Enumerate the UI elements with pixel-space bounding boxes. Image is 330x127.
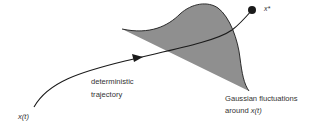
start-state-label: x(t) bbox=[18, 112, 29, 122]
fixed-point-label: x* bbox=[264, 4, 270, 14]
diagram-canvas bbox=[0, 0, 330, 127]
gaussian-distribution-shape bbox=[122, 4, 249, 91]
fixed-point-dot bbox=[248, 6, 256, 14]
fluctuations-label-prefix: around bbox=[225, 106, 251, 115]
trajectory-arrowhead-icon bbox=[132, 54, 143, 62]
fluctuations-label-line1: Gaussian fluctuations bbox=[225, 94, 298, 104]
fluctuations-label-line2: around x(t) bbox=[225, 106, 262, 116]
trajectory-label-line1: deterministic bbox=[91, 77, 134, 87]
trajectory-label-line2: trajectory bbox=[91, 90, 122, 100]
fluctuations-label-variable: x(t) bbox=[251, 106, 262, 115]
